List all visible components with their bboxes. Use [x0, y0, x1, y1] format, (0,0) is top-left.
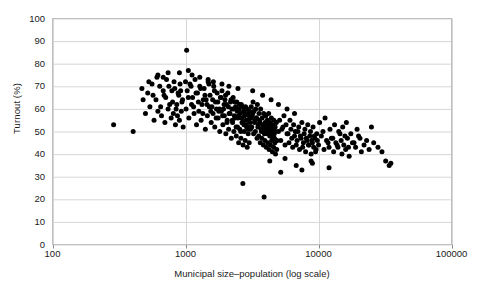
data-point	[197, 84, 202, 89]
data-point	[299, 120, 304, 125]
data-point	[379, 149, 384, 154]
data-point	[197, 75, 202, 80]
data-point	[152, 118, 157, 123]
data-point	[371, 140, 376, 145]
data-point	[247, 140, 252, 145]
data-point	[364, 138, 369, 143]
data-point	[143, 111, 148, 116]
data-point	[250, 113, 255, 118]
data-point	[179, 109, 184, 114]
data-point	[236, 140, 241, 145]
data-point	[184, 48, 189, 53]
data-point	[266, 111, 271, 116]
data-point	[163, 95, 168, 100]
data-point	[369, 124, 374, 129]
data-point	[180, 97, 185, 102]
data-point	[193, 77, 198, 82]
x-axis-tick-label: 1000	[151, 249, 221, 259]
data-point	[246, 131, 251, 136]
data-point	[231, 129, 236, 134]
data-point	[174, 106, 179, 111]
data-point	[221, 106, 226, 111]
data-point	[388, 161, 393, 166]
data-point	[293, 129, 298, 134]
data-point	[303, 149, 308, 154]
data-point	[231, 95, 236, 100]
data-point	[145, 91, 150, 96]
data-point	[208, 93, 213, 98]
data-point	[344, 120, 349, 125]
data-point	[209, 120, 214, 125]
data-point	[342, 134, 347, 139]
data-point	[335, 143, 340, 148]
data-point	[139, 86, 144, 91]
data-point	[273, 152, 278, 157]
data-point	[253, 129, 258, 134]
data-point	[177, 70, 182, 75]
data-point	[225, 118, 230, 123]
data-point	[287, 118, 292, 123]
data-point	[151, 93, 156, 98]
data-point	[291, 122, 296, 127]
data-point	[307, 143, 312, 148]
data-point	[196, 109, 201, 114]
data-point	[257, 120, 262, 125]
data-point	[274, 147, 279, 152]
data-point	[327, 145, 332, 150]
data-point	[305, 122, 310, 127]
data-point	[253, 106, 258, 111]
data-point	[230, 120, 235, 125]
data-point	[288, 127, 293, 132]
data-point	[157, 84, 162, 89]
data-point	[331, 149, 336, 154]
data-point	[285, 106, 290, 111]
scatter-chart-figure: 0102030405060708090100 10010001000010000…	[0, 0, 486, 294]
data-point	[155, 73, 160, 78]
data-point	[186, 68, 191, 73]
data-point	[192, 111, 197, 116]
data-point	[239, 102, 244, 107]
data-point	[301, 140, 306, 145]
data-point	[313, 149, 318, 154]
data-point	[205, 113, 210, 118]
data-point	[326, 140, 331, 145]
data-point	[184, 106, 189, 111]
data-point	[332, 122, 337, 127]
data-point	[203, 127, 208, 132]
data-point	[195, 91, 200, 96]
y-axis-tick-label: 30	[5, 172, 45, 182]
data-point	[347, 154, 352, 159]
data-point	[219, 82, 224, 87]
data-point	[295, 138, 300, 143]
data-point	[302, 127, 307, 132]
data-point	[281, 113, 286, 118]
data-point	[315, 138, 320, 143]
data-point	[155, 109, 160, 114]
data-point	[141, 97, 146, 102]
data-point	[340, 124, 345, 129]
data-point	[283, 156, 288, 161]
data-point	[320, 129, 325, 134]
data-point	[278, 138, 283, 143]
data-point	[202, 93, 207, 98]
data-point	[175, 113, 180, 118]
data-point	[314, 131, 319, 136]
data-point	[211, 111, 216, 116]
data-point	[299, 167, 304, 172]
data-point	[292, 111, 297, 116]
data-point	[262, 195, 267, 200]
data-point	[286, 140, 291, 145]
data-point	[187, 82, 192, 87]
y-axis-tick-label: 0	[5, 240, 45, 250]
data-point	[273, 124, 278, 129]
data-point	[277, 118, 282, 123]
data-point	[284, 122, 289, 127]
data-point	[289, 136, 294, 141]
data-point	[213, 100, 218, 105]
data-point	[226, 84, 231, 89]
data-point	[249, 104, 254, 109]
data-point	[267, 158, 272, 163]
data-point	[211, 79, 216, 84]
data-point	[202, 86, 207, 91]
data-point	[234, 134, 239, 139]
